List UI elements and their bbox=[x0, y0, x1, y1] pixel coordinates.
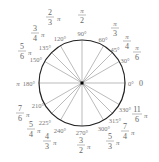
svg-text:135°: 135° bbox=[39, 44, 52, 51]
svg-text:π: π bbox=[57, 15, 61, 23]
svg-text:7: 7 bbox=[123, 122, 127, 131]
svg-text:5: 5 bbox=[108, 132, 112, 141]
svg-text:4: 4 bbox=[45, 132, 49, 141]
label-270: 270° 3 2 π bbox=[76, 129, 91, 155]
svg-text:150°: 150° bbox=[30, 56, 43, 63]
svg-text:4: 4 bbox=[123, 132, 127, 141]
label-0: 0° 0 bbox=[128, 79, 143, 88]
svg-text:90°: 90° bbox=[77, 30, 87, 37]
svg-text:6: 6 bbox=[135, 53, 139, 62]
label-135: 3 4 π 135° bbox=[31, 24, 52, 51]
label-60: π 3 60° bbox=[98, 20, 119, 43]
svg-text:3: 3 bbox=[113, 29, 117, 38]
svg-text:2: 2 bbox=[80, 16, 84, 25]
svg-text:120°: 120° bbox=[54, 35, 67, 42]
svg-text:π: π bbox=[116, 139, 120, 147]
svg-text:0: 0 bbox=[139, 79, 143, 88]
svg-text:4: 4 bbox=[29, 130, 33, 139]
label-240: 4 3 π 240° bbox=[43, 127, 67, 151]
svg-text:7: 7 bbox=[18, 104, 22, 113]
label-315: 315° 7 4 π bbox=[109, 117, 135, 141]
svg-text:180°: 180° bbox=[23, 80, 36, 87]
label-90: π 2 90° bbox=[77, 7, 87, 37]
svg-text:π: π bbox=[125, 33, 129, 41]
svg-text:300°: 300° bbox=[98, 125, 111, 132]
svg-text:45°: 45° bbox=[110, 46, 120, 53]
svg-text:330°: 330° bbox=[119, 106, 132, 113]
svg-text:0°: 0° bbox=[128, 80, 134, 87]
label-300: 300° 5 3 π bbox=[98, 125, 120, 151]
svg-text:π: π bbox=[26, 111, 30, 119]
svg-text:π: π bbox=[135, 44, 139, 52]
svg-text:225°: 225° bbox=[39, 119, 52, 126]
svg-text:4: 4 bbox=[33, 34, 37, 43]
svg-text:5: 5 bbox=[29, 120, 33, 129]
svg-text:6: 6 bbox=[135, 115, 139, 124]
svg-text:π: π bbox=[87, 143, 91, 151]
svg-text:3: 3 bbox=[48, 18, 52, 27]
svg-text:3: 3 bbox=[45, 142, 49, 151]
svg-text:315°: 315° bbox=[109, 117, 122, 124]
svg-text:π: π bbox=[53, 139, 57, 147]
svg-text:π: π bbox=[113, 20, 117, 28]
svg-text:2: 2 bbox=[79, 146, 83, 155]
svg-text:60°: 60° bbox=[98, 36, 108, 43]
center-point bbox=[81, 82, 84, 85]
svg-text:π: π bbox=[131, 129, 135, 137]
svg-text:2: 2 bbox=[48, 8, 52, 17]
svg-text:π: π bbox=[80, 7, 84, 15]
svg-text:240°: 240° bbox=[54, 127, 67, 134]
label-120: 2 3 π 120° bbox=[46, 8, 67, 42]
unit-circle-diagram: π 2 90° π 3 60° π 4 45° π 6 30° 0° 0 2 3… bbox=[0, 0, 159, 162]
svg-text:π: π bbox=[41, 31, 45, 39]
svg-text:3: 3 bbox=[108, 142, 112, 151]
svg-text:30°: 30° bbox=[120, 57, 130, 64]
svg-text:4: 4 bbox=[125, 42, 129, 51]
svg-text:6: 6 bbox=[18, 114, 22, 123]
label-30: π 6 30° bbox=[120, 44, 141, 64]
svg-text:6: 6 bbox=[20, 52, 24, 61]
svg-text:3: 3 bbox=[33, 24, 37, 33]
svg-text:270°: 270° bbox=[76, 129, 89, 136]
svg-text:5: 5 bbox=[20, 42, 24, 51]
svg-text:3: 3 bbox=[79, 136, 83, 145]
svg-text:π: π bbox=[144, 112, 148, 120]
svg-text:π: π bbox=[37, 127, 41, 135]
svg-text:π: π bbox=[16, 80, 20, 88]
svg-text:11: 11 bbox=[133, 105, 141, 114]
label-180: π 180° bbox=[16, 80, 35, 88]
svg-text:210°: 210° bbox=[32, 102, 45, 109]
